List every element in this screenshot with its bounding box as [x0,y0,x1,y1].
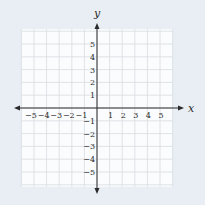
y-tick-label: −4 [83,155,95,164]
y-tick-label: −3 [83,142,95,151]
x-tick-label: 4 [146,111,151,120]
coordinate-plane: −5−4−3−2−112345 −5−4−3−2−112345 x y [0,0,205,205]
y-tick-label: −1 [83,117,95,126]
x-tick-label: −2 [63,111,75,120]
y-tick-label: 3 [90,66,95,75]
x-tick-label: 1 [108,111,113,120]
x-axis-right-arrow-icon [178,106,184,111]
x-axis-label: x [188,102,195,115]
y-tick-label: −5 [83,168,95,177]
y-tick-label: 1 [90,91,95,100]
x-tick-label: 3 [133,111,138,120]
y-axis-up-arrow-icon [95,23,100,29]
y-axis-down-arrow-icon [95,188,100,194]
x-axis-left-arrow-icon [14,106,20,111]
x-tick-label: −5 [25,111,37,120]
y-axis-label: y [93,7,101,20]
y-tick-label: 5 [90,40,95,49]
x-tick-label: 2 [121,111,126,120]
x-tick-label: 5 [158,111,163,120]
x-tick-label: −4 [38,111,50,120]
y-tick-label: 2 [90,78,95,87]
y-tick-label: −2 [83,130,95,139]
y-tick-label: 4 [90,53,95,62]
x-tick-label: −3 [50,111,62,120]
